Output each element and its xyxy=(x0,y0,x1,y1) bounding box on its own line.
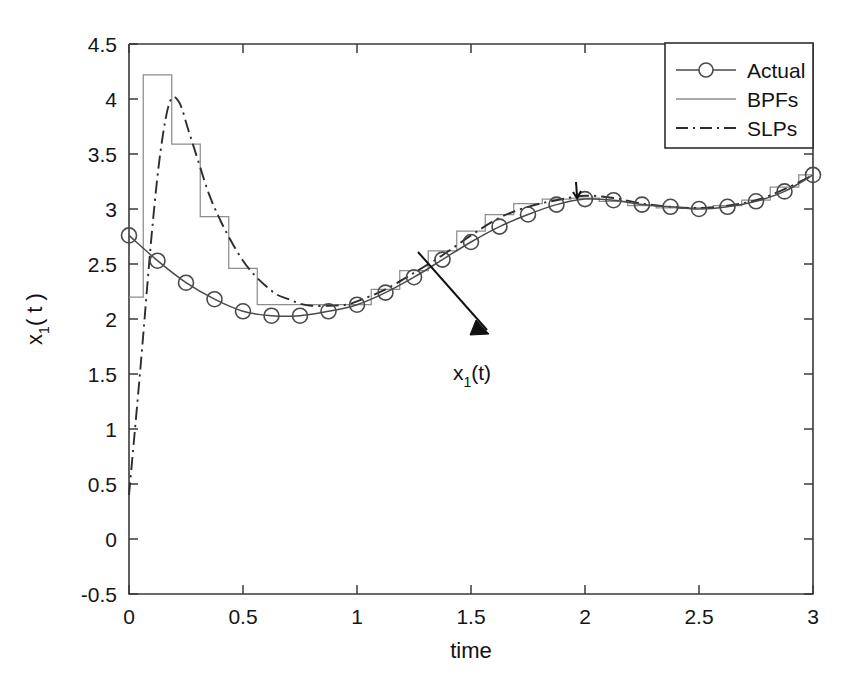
legend-label-actual: Actual xyxy=(747,59,805,82)
y-tick-label: 4.5 xyxy=(88,33,117,56)
x-tick-label: 0.5 xyxy=(228,605,257,628)
x-tick-label: 0 xyxy=(123,605,135,628)
legend-label-bpfs: BPFs xyxy=(747,88,798,111)
x-axis-title: time xyxy=(450,638,492,663)
annotation-label-rest: (t) xyxy=(471,361,491,384)
legend[interactable]: Actual BPFs SLPs xyxy=(665,43,813,148)
y-tick-label: 0 xyxy=(105,528,117,551)
x-tick-label: 2.5 xyxy=(684,605,713,628)
y-tick-label: 4 xyxy=(105,88,117,111)
legend-label-slps: SLPs xyxy=(747,117,797,140)
x-tick-label: 2 xyxy=(579,605,591,628)
annotation-label-sub: 1 xyxy=(464,374,472,390)
y-tick-label: 2.5 xyxy=(88,253,117,276)
x-tick-label: 1 xyxy=(351,605,363,628)
x-tick-label: 3 xyxy=(807,605,819,628)
y-tick-label: 2 xyxy=(105,308,117,331)
chart-svg: -0.500.511.522.533.544.5 00.511.522.53 x… xyxy=(0,0,858,689)
y-tick-label: 1.5 xyxy=(88,363,117,386)
y-tick-label: -0.5 xyxy=(81,583,117,606)
figure-container: -0.500.511.522.533.544.5 00.511.522.53 x… xyxy=(0,0,858,689)
annotation-label-main: x xyxy=(453,361,464,384)
y-tick-label: 0.5 xyxy=(88,473,117,496)
legend-marker-circle-icon xyxy=(699,63,713,77)
y-axis-title-rest: ( t ) xyxy=(22,293,47,326)
y-tick-label: 1 xyxy=(105,418,117,441)
y-tick-label: 3.5 xyxy=(88,143,117,166)
y-tick-label: 3 xyxy=(105,198,117,221)
y-axis-title-sub: 1 xyxy=(36,326,52,334)
x-tick-label: 1.5 xyxy=(456,605,485,628)
y-axis-title-main: x xyxy=(22,334,47,345)
